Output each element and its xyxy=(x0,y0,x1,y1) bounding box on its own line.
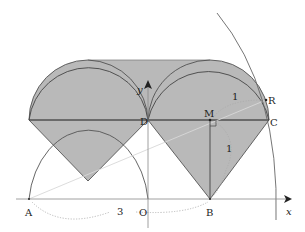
label-B: B xyxy=(206,207,213,218)
label-C: C xyxy=(270,117,278,128)
point-R-dot xyxy=(265,99,268,102)
measure-AB: 3 xyxy=(117,206,123,217)
point-B-dot xyxy=(209,198,211,200)
diagram-canvas: y x A O B D M C R 1 1 3 xyxy=(0,0,305,232)
x-axis-label: x xyxy=(286,206,292,217)
measure-MB: 1 xyxy=(226,143,232,154)
point-A-dot xyxy=(28,198,30,200)
y-axis-label: y xyxy=(136,84,143,95)
shaded-left-triangle xyxy=(29,120,148,181)
label-R: R xyxy=(268,95,276,106)
label-D: D xyxy=(140,116,148,127)
label-O: O xyxy=(139,207,147,218)
label-A: A xyxy=(24,207,33,218)
dim-arc-AB xyxy=(32,202,110,219)
point-M-dot xyxy=(209,119,212,122)
measure-MR: 1 xyxy=(232,91,238,102)
geometry-diagram: y x A O B D M C R 1 1 3 xyxy=(0,0,305,232)
shaded-right-triangle xyxy=(148,120,269,199)
label-M: M xyxy=(204,108,214,119)
